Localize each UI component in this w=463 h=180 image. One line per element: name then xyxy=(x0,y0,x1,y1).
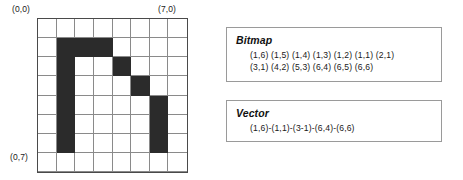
grid-cell-4-4 xyxy=(113,96,132,115)
grid-cell-5-6 xyxy=(131,134,150,153)
grid-cell-6-7 xyxy=(150,153,169,172)
grid-cell-6-2 xyxy=(150,57,169,76)
grid-cell-6-5 xyxy=(150,115,169,134)
grid-cell-2-1 xyxy=(75,38,94,57)
grid-corner-label-top-left: (0,0) xyxy=(12,4,30,14)
grid-cell-6-3 xyxy=(150,76,169,95)
grid-cell-3-4 xyxy=(94,96,113,115)
grid-cell-1-3 xyxy=(57,76,76,95)
grid-cell-5-3 xyxy=(131,76,150,95)
pixel-grid xyxy=(37,18,188,173)
grid-cell-0-2 xyxy=(38,57,57,76)
grid-cell-5-0 xyxy=(131,19,150,38)
grid-cell-6-6 xyxy=(150,134,169,153)
grid-cell-1-2 xyxy=(57,57,76,76)
grid-cell-2-3 xyxy=(75,76,94,95)
grid-cell-1-1 xyxy=(57,38,76,57)
grid-cell-7-3 xyxy=(168,76,187,95)
grid-cell-2-4 xyxy=(75,96,94,115)
grid-cell-2-2 xyxy=(75,57,94,76)
grid-cell-7-7 xyxy=(168,153,187,172)
grid-cell-0-3 xyxy=(38,76,57,95)
grid-cell-5-2 xyxy=(131,57,150,76)
bitmap-panel-title: Bitmap xyxy=(236,34,432,46)
grid-cell-0-5 xyxy=(38,115,57,134)
vector-panel: Vector (1,6)-(1,1)-(3-1)-(6,4)-(6,6) xyxy=(226,100,442,142)
grid-cell-7-2 xyxy=(168,57,187,76)
grid-cell-3-0 xyxy=(94,19,113,38)
pixel-grid-figure: (0,0) (7,0) (0,7) xyxy=(0,0,210,180)
grid-cell-3-3 xyxy=(94,76,113,95)
grid-cell-5-5 xyxy=(131,115,150,134)
grid-cell-4-7 xyxy=(113,153,132,172)
grid-cell-4-6 xyxy=(113,134,132,153)
grid-cell-0-6 xyxy=(38,134,57,153)
grid-cell-3-5 xyxy=(94,115,113,134)
grid-cell-6-1 xyxy=(150,38,169,57)
grid-cell-7-6 xyxy=(168,134,187,153)
grid-cell-1-5 xyxy=(57,115,76,134)
grid-cell-0-0 xyxy=(38,19,57,38)
grid-cell-7-4 xyxy=(168,96,187,115)
grid-cell-1-4 xyxy=(57,96,76,115)
grid-cell-7-0 xyxy=(168,19,187,38)
bitmap-panel: Bitmap (1,6) (1,5) (1,4) (1,3) (1,2) (1,… xyxy=(226,27,442,82)
grid-cell-5-7 xyxy=(131,153,150,172)
grid-cell-3-6 xyxy=(94,134,113,153)
grid-cell-1-0 xyxy=(57,19,76,38)
grid-cell-6-0 xyxy=(150,19,169,38)
bitmap-coordinates-line-2: (3,1) (4,2) (5,3) (6,4) (6,5) (6,6) xyxy=(236,62,432,72)
grid-cell-5-1 xyxy=(131,38,150,57)
grid-corner-label-top-right: (7,0) xyxy=(158,4,176,14)
grid-cell-4-5 xyxy=(113,115,132,134)
grid-cell-0-7 xyxy=(38,153,57,172)
grid-cell-7-1 xyxy=(168,38,187,57)
grid-cell-3-1 xyxy=(94,38,113,57)
grid-cell-2-5 xyxy=(75,115,94,134)
grid-cell-4-1 xyxy=(113,38,132,57)
grid-cell-1-6 xyxy=(57,134,76,153)
grid-cell-4-2 xyxy=(113,57,132,76)
bitmap-coordinates-line-1: (1,6) (1,5) (1,4) (1,3) (1,2) (1,1) (2,1… xyxy=(236,50,432,60)
grid-cell-1-7 xyxy=(57,153,76,172)
grid-cell-7-5 xyxy=(168,115,187,134)
grid-cell-2-6 xyxy=(75,134,94,153)
grid-cell-6-4 xyxy=(150,96,169,115)
grid-cell-0-4 xyxy=(38,96,57,115)
vector-coordinates-line-1: (1,6)-(1,1)-(3-1)-(6,4)-(6,6) xyxy=(236,123,432,133)
vector-panel-title: Vector xyxy=(236,107,432,119)
grid-cell-3-2 xyxy=(94,57,113,76)
grid-cell-2-0 xyxy=(75,19,94,38)
grid-cell-0-1 xyxy=(38,38,57,57)
grid-corner-label-bottom-left: (0,7) xyxy=(10,152,28,162)
grid-cell-4-3 xyxy=(113,76,132,95)
grid-cell-3-7 xyxy=(94,153,113,172)
grid-cell-2-7 xyxy=(75,153,94,172)
grid-cell-5-4 xyxy=(131,96,150,115)
grid-cell-4-0 xyxy=(113,19,132,38)
